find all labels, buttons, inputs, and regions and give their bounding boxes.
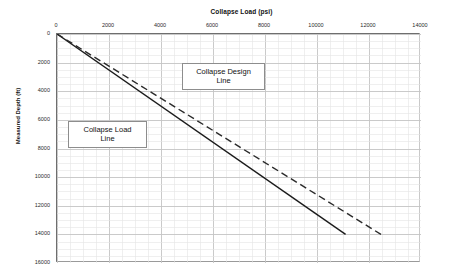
y-tick-label: 8000 [24, 145, 50, 151]
x-tick-label: 0 [54, 22, 57, 28]
x-tick-label: 10000 [308, 22, 323, 28]
x-tick-label: 6000 [206, 22, 218, 28]
collapse-load-chart: Collapse Load (psi) Measured Depth (ft) … [0, 0, 449, 273]
y-tick-label: 10000 [24, 173, 50, 179]
annotation-collapse-load-line: Collapse Load Line [68, 121, 147, 148]
annotation-collapse-design-line: Collapse Design Line [182, 63, 265, 90]
y-tick-label: 16000 [24, 259, 50, 265]
y-tick-label: 14000 [24, 230, 50, 236]
x-tick-label: 4000 [154, 22, 166, 28]
x-tick-label: 14000 [412, 22, 427, 28]
y-tick-label: 4000 [24, 87, 50, 93]
y-tick-label: 6000 [24, 116, 50, 122]
y-tick-label: 2000 [24, 59, 50, 65]
chart-title: Collapse Load (psi) [0, 8, 449, 15]
y-tick-label: 12000 [24, 202, 50, 208]
x-tick-label: 8000 [258, 22, 270, 28]
y-axis-label: Measured Depth (ft) [15, 61, 21, 171]
x-tick-label: 12000 [360, 22, 375, 28]
y-tick-label: 0 [24, 30, 50, 36]
x-tick-label: 2000 [102, 22, 114, 28]
